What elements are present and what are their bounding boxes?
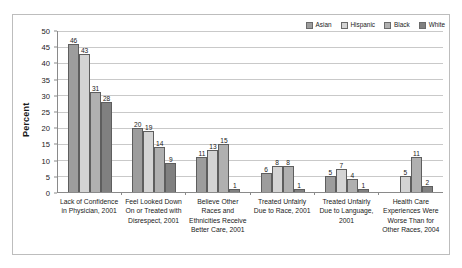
x-axis-label: Treated Unfairly Due to Race, 2001 — [250, 197, 314, 252]
bar-value-label: 4 — [350, 172, 354, 180]
bar: 43 — [79, 54, 90, 192]
bar-value-label: 19 — [145, 124, 152, 132]
bar-value-label: 8 — [275, 159, 279, 167]
bar-value-label: 28 — [103, 95, 110, 103]
y-tick-label: 30 — [42, 91, 50, 100]
x-axis-label: Treated Unfairly Due to Language, 2001 — [314, 197, 378, 252]
bar-value-label: 1 — [233, 182, 237, 190]
legend-label-hispanic: Hispanic — [351, 21, 376, 29]
bar: 1 — [229, 189, 240, 192]
bar: 9 — [165, 163, 176, 192]
bar-value-label: 1 — [361, 182, 365, 190]
legend-label-black: Black — [394, 21, 410, 29]
bar-value-label: 8 — [286, 159, 290, 167]
y-tick-label: 50 — [42, 27, 50, 36]
bar: 6 — [261, 173, 272, 192]
bar: 8 — [272, 166, 283, 192]
bar-value-label: 46 — [70, 37, 77, 45]
bar-group: 5741 — [315, 31, 379, 192]
x-axis-label: Believe Other Races and Ethnicities Rece… — [186, 197, 250, 252]
bar: 13 — [207, 150, 218, 192]
bar-value-label: 11 — [413, 150, 420, 158]
bar: 7 — [336, 169, 347, 192]
bar-value-label: 20 — [134, 121, 141, 129]
bar: 31 — [90, 92, 101, 192]
bar-value-label: 14 — [156, 140, 163, 148]
bar: 8 — [283, 166, 294, 192]
bar-value-label: 15 — [220, 137, 227, 145]
legend-swatch-white — [419, 22, 426, 29]
y-axis-title: Percent — [19, 75, 33, 165]
bar-value-label: 7 — [339, 162, 343, 170]
bar: 46 — [68, 44, 79, 192]
x-axis-label: Lack of Confidence in Physician, 2001 — [57, 197, 121, 252]
bar-value-label: 11 — [198, 150, 205, 158]
bar: 2 — [422, 186, 433, 192]
bar-value-label: 6 — [264, 166, 268, 174]
bar: 20 — [132, 128, 143, 192]
y-tick-label: 45 — [42, 43, 50, 52]
bar: 19 — [143, 131, 154, 192]
bar-group: 6881 — [251, 31, 315, 192]
bar-group: 5112 — [379, 31, 443, 192]
chart-figure: Asian Hispanic Black White Percent 05101… — [12, 14, 450, 255]
x-axis-labels: Lack of Confidence in Physician, 2001Fee… — [57, 197, 443, 252]
bar: 11 — [411, 157, 422, 192]
bar-value-label: 43 — [81, 47, 88, 55]
legend-swatch-hispanic — [341, 22, 348, 29]
bar-group: 1113151 — [186, 31, 250, 192]
bar: 15 — [218, 144, 229, 192]
x-tick-mark — [121, 192, 122, 195]
y-tick-label: 10 — [42, 156, 50, 165]
bar: 11 — [196, 157, 207, 192]
bar: 4 — [347, 179, 358, 192]
x-tick-mark — [250, 192, 251, 195]
legend-swatch-asian — [306, 22, 313, 29]
y-tick-label: 5 — [46, 172, 50, 181]
bar-value-label: 9 — [169, 156, 173, 164]
y-tick-label: 15 — [42, 140, 50, 149]
legend-label-white: White — [429, 21, 445, 29]
legend-item-hispanic: Hispanic — [341, 21, 376, 29]
y-axis-ticks: 05101520253035404550 — [33, 31, 54, 193]
bar-value-label: 2 — [426, 179, 430, 187]
bar-value-label: 13 — [209, 143, 216, 151]
bar-group: 2019149 — [122, 31, 186, 192]
legend-item-asian: Asian — [306, 21, 332, 29]
bar-group: 46433128 — [58, 31, 122, 192]
bar-groups: 4643312820191491113151688157415112 — [58, 31, 443, 192]
y-tick-label: 25 — [42, 108, 50, 117]
bar: 5 — [325, 176, 336, 192]
bar-value-label: 1 — [297, 182, 301, 190]
bar-value-label: 31 — [92, 85, 99, 93]
y-tick-label: 20 — [42, 124, 50, 133]
legend-item-white: White — [419, 21, 445, 29]
bar-value-label: 5 — [404, 169, 408, 177]
bar: 1 — [358, 189, 369, 192]
legend-label-asian: Asian — [316, 21, 332, 29]
bar: 28 — [101, 102, 112, 192]
x-axis-label: Health Care Experiences Were Worse Than … — [379, 197, 443, 252]
bar-value-label: 5 — [328, 169, 332, 177]
y-tick-label: 40 — [42, 59, 50, 68]
y-tick-label: 35 — [42, 75, 50, 84]
bar: 5 — [400, 176, 411, 192]
plot-area: 05101520253035404550 4643312820191491113… — [33, 31, 445, 193]
x-axis-label: Feel Looked Down On or Treated with Disr… — [121, 197, 185, 252]
legend-item-black: Black — [384, 21, 410, 29]
chart-legend: Asian Hispanic Black White — [306, 18, 446, 32]
x-tick-mark — [185, 192, 186, 195]
bar: 14 — [154, 147, 165, 192]
bar: 1 — [294, 189, 305, 192]
legend-swatch-black — [384, 22, 391, 29]
x-tick-mark — [314, 192, 315, 195]
x-tick-mark — [378, 192, 379, 195]
y-tick-label: 0 — [46, 189, 50, 198]
plot-canvas: 4643312820191491113151688157415112 — [57, 31, 443, 193]
